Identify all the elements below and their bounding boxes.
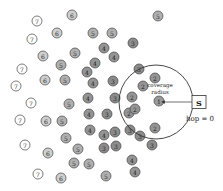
sensor-node: 5 (107, 28, 117, 38)
sensor-node: 1 (154, 96, 164, 106)
diagram-canvas: 6756557345645474327654327543217654322443… (0, 0, 223, 191)
node-hop-label: 4 (88, 127, 92, 134)
node-hop-label: 5 (59, 62, 63, 69)
node-hop-label: 7 (20, 66, 24, 73)
nodes-layer: 6756557345645474327654327543217654322443… (11, 10, 164, 183)
sensor-node: 6 (56, 173, 66, 183)
sink-label: S (196, 98, 202, 108)
node-hop-label: 5 (110, 30, 114, 37)
sensor-node: 4 (84, 109, 94, 119)
node-hop-label: 7 (14, 83, 18, 90)
node-hop-label: 6 (55, 30, 59, 37)
node-hop-label: 3 (113, 95, 117, 102)
node-hop-label: 4 (102, 45, 106, 52)
sensor-node: 6 (43, 148, 53, 158)
sensor-node: 3 (110, 93, 120, 103)
node-hop-label: 4 (133, 169, 137, 176)
node-hop-label: 4 (86, 95, 90, 102)
sensor-node: 3 (135, 131, 145, 141)
node-hop-label: 4 (87, 111, 91, 118)
sensor-node: 5 (61, 133, 71, 143)
node-hop-label: 6 (46, 150, 50, 157)
sensor-node: 5 (88, 28, 98, 38)
sensor-node: 4 (130, 167, 140, 177)
sensor-network-diagram: 6756557345645474327654327543217654322443… (0, 0, 223, 191)
node-hop-label: 5 (91, 30, 95, 37)
node-hop-label: 2 (153, 75, 157, 82)
sensor-node: 5 (64, 99, 74, 109)
node-hop-label: 6 (43, 77, 47, 84)
sensor-node: 3 (110, 127, 120, 137)
node-hop-label: 5 (104, 173, 108, 180)
sensor-node: 5 (69, 158, 79, 168)
node-hop-label: 5 (72, 160, 76, 167)
node-hop-label: 5 (156, 13, 160, 20)
node-hop-label: 5 (63, 77, 67, 84)
node-hop-label: 7 (18, 117, 22, 124)
node-hop-label: 7 (29, 100, 33, 107)
node-hop-label: 3 (113, 129, 117, 136)
sensor-node: 5 (73, 144, 83, 154)
node-hop-label: 6 (44, 118, 48, 125)
sensor-node: 3 (147, 140, 157, 150)
hop-zero-label: hop = 0 (186, 115, 214, 123)
node-hop-label: 6 (59, 175, 63, 182)
node-hop-label: 2 (130, 94, 134, 101)
sensor-node: 5 (60, 75, 70, 85)
sensor-node: 6 (41, 116, 51, 126)
node-hop-label: 7 (35, 18, 39, 25)
sensor-node: 3 (128, 38, 138, 48)
sensor-node: 4 (99, 43, 109, 53)
sensor-node: 2 (150, 123, 160, 133)
sensor-node: 3 (111, 141, 121, 151)
sensor-node: 2 (130, 104, 140, 114)
coverage-label-line1: coverage (147, 82, 172, 89)
sensor-node: 3 (108, 76, 118, 86)
sensor-node: 3 (102, 109, 112, 119)
sensor-node: 6 (38, 51, 48, 61)
node-hop-label: 2 (153, 125, 157, 132)
sensor-node: 4 (85, 125, 95, 135)
node-hop-label: 6 (70, 12, 74, 19)
sensor-node: 5 (101, 171, 111, 181)
sensor-node: 7 (17, 64, 27, 74)
sensor-node: 4 (127, 155, 137, 165)
sensor-node: 7 (20, 140, 30, 150)
node-hop-label: 3 (131, 40, 135, 47)
node-hop-label: 3 (102, 145, 106, 152)
sensor-node: 6 (52, 28, 62, 38)
node-hop-label: 7 (23, 142, 27, 149)
node-hop-label: 3 (105, 111, 109, 118)
sensor-node: 5 (153, 11, 163, 21)
node-hop-label: 4 (85, 69, 89, 76)
node-hop-label: 4 (91, 80, 95, 87)
coverage-label-line2: radius (151, 89, 169, 95)
node-hop-label: 4 (102, 132, 106, 139)
sensor-node: 6 (67, 10, 77, 20)
node-hop-label: 5 (87, 161, 91, 168)
sensor-node: 5 (70, 48, 80, 58)
node-hop-label: 5 (73, 50, 77, 57)
sensor-node: 4 (88, 78, 98, 88)
node-hop-label: 3 (114, 143, 118, 150)
node-hop-label: 6 (41, 53, 45, 60)
node-hop-label: 7 (36, 171, 40, 178)
sensor-node: 7 (27, 34, 37, 44)
sensor-node: 7 (11, 81, 21, 91)
sensor-node: 4 (99, 130, 109, 140)
sensor-node: 4 (90, 58, 100, 68)
sensor-node: 4 (82, 67, 92, 77)
node-hop-label: 1 (157, 98, 161, 105)
node-hop-label: 2 (133, 106, 137, 113)
sensor-node: 7 (26, 98, 36, 108)
sensor-node: 4 (83, 93, 93, 103)
sensor-node: 5 (56, 60, 66, 70)
node-hop-label: 2 (141, 83, 145, 90)
sensor-node: 7 (32, 16, 42, 26)
sensor-node: 5 (57, 116, 67, 126)
sensor-node: 4 (109, 52, 119, 62)
node-hop-label: 4 (93, 60, 97, 67)
node-hop-label: 7 (30, 36, 34, 43)
node-hop-label: 3 (150, 142, 154, 149)
node-hop-label: 3 (111, 78, 115, 85)
